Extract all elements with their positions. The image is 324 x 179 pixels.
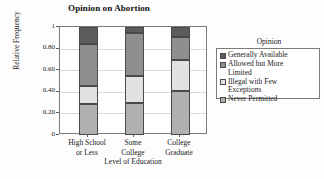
y-axis-tick-mark [56, 134, 59, 135]
bar-segment[interactable] [125, 33, 144, 76]
plot-area [59, 26, 207, 134]
y-axis-tick-label: 0.40 [29, 87, 55, 94]
bar-segment[interactable] [79, 27, 98, 44]
bar-segment[interactable] [171, 60, 190, 90]
bar-segment[interactable] [125, 76, 144, 102]
y-axis-tick-label: 0.60 [29, 66, 55, 73]
y-axis-tick-label: 0 [29, 131, 55, 138]
legend-item[interactable]: Never Permitted [220, 95, 317, 104]
bar-segment[interactable] [171, 27, 190, 37]
stacked-bar[interactable] [171, 27, 190, 133]
legend-item-label: Illegal with Few Exceptions [228, 78, 277, 95]
legend-swatch-icon [220, 62, 226, 68]
y-axis-title: Relative Frequency [12, 1, 21, 81]
legend-item-label: Never Permitted [228, 95, 277, 104]
stacked-bar[interactable] [125, 27, 144, 133]
y-axis-tick-label: 0.80 [29, 44, 55, 51]
x-axis-tick-mark [87, 134, 88, 137]
legend-item-label: Allowed but More Limited [228, 60, 283, 77]
legend-swatch-icon [220, 79, 226, 85]
legend-item[interactable]: Illegal with Few Exceptions [220, 78, 317, 95]
x-axis-tick-mark [133, 134, 134, 137]
bar-segment[interactable] [171, 91, 190, 135]
legend-item[interactable]: Allowed but More Limited [220, 60, 317, 77]
legend: Generally AvailableAllowed but More Limi… [216, 48, 320, 99]
bar-segment[interactable] [79, 44, 98, 86]
bar-segment[interactable] [125, 103, 144, 135]
page-title: Opinion on Abortion [0, 3, 218, 13]
bar-segment[interactable] [79, 104, 98, 135]
x-axis-tick-label: College Graduate [146, 138, 212, 157]
bar-segment[interactable] [171, 37, 190, 61]
bar-segment[interactable] [79, 86, 98, 104]
y-axis-tick-label: 0.20 [29, 109, 55, 116]
chart-screenshot: Opinion on Abortion Relative Frequency 1… [0, 0, 324, 179]
legend-swatch-icon [220, 53, 226, 59]
stacked-bar[interactable] [79, 27, 98, 133]
y-axis-tick-label: 1 [29, 23, 55, 30]
x-axis-title: Level of Education [59, 157, 207, 166]
legend-swatch-icon [220, 97, 226, 103]
legend-title: Opinion [216, 37, 322, 46]
x-axis-tick-mark [179, 134, 180, 137]
